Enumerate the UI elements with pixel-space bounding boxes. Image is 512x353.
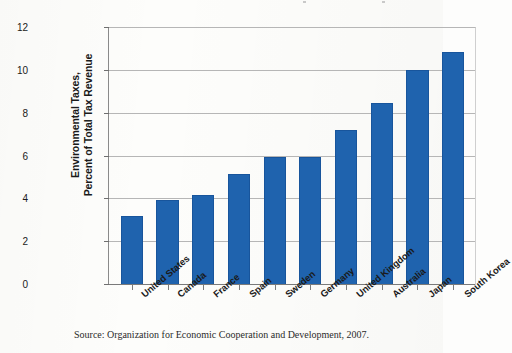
bar-chart-figure: Environmental Taxes, Percent of Total Ta… [40, 16, 403, 337]
x-axis-label-france: France [211, 291, 218, 299]
y-tick-label-6: 6 [0, 152, 28, 162]
y-tick-label-10: 10 [0, 66, 28, 76]
y-tick-label-8: 8 [0, 109, 28, 119]
bar-slot-sweden [257, 28, 293, 285]
y-axis-title: Environmental Taxes, Percent of Total Ta… [69, 25, 95, 225]
plot-area: 024681012 [108, 27, 476, 285]
bar-slot-united-states [114, 28, 150, 285]
x-axis-label-australia: Australia [390, 291, 397, 299]
y-tick-label-2: 2 [0, 237, 28, 247]
x-axis-label-japan: Japan [426, 291, 433, 299]
y-tick-label-0: 0 [0, 280, 28, 290]
scan-artifact-speck [303, 1, 306, 3]
bar-australia[interactable] [371, 103, 393, 285]
bar-slot-germany [293, 28, 329, 285]
bar-spain[interactable] [228, 174, 250, 285]
x-axis-label-united-states: United States [139, 291, 146, 299]
bar-slot-canada [150, 28, 186, 285]
bar-united-states[interactable] [121, 216, 143, 285]
scan-artifact-speck [382, 1, 385, 3]
bars-group [109, 28, 475, 285]
bar-united-kingdom[interactable] [335, 130, 357, 285]
x-axis-label-canada: Canada [175, 291, 182, 299]
bar-slot-united-kingdom [328, 28, 364, 285]
x-axis-label-sweden: Sweden [283, 291, 290, 299]
x-axis-label-south-korea: South Korea [462, 291, 469, 299]
bar-slot-south-korea [435, 28, 471, 285]
x-axis-label-united-kingdom: United Kingdom [354, 291, 361, 299]
bar-sweden[interactable] [264, 157, 286, 286]
bar-south-korea[interactable] [442, 52, 464, 285]
y-tick-label-4: 4 [0, 194, 28, 204]
x-axis-label-spain: Spain [247, 291, 254, 299]
bar-slot-france [185, 28, 221, 285]
bar-slot-australia [364, 28, 400, 285]
bar-germany[interactable] [299, 157, 321, 286]
x-axis-label-germany: Germany [318, 291, 325, 299]
bar-slot-spain [221, 28, 257, 285]
y-tick-label-12: 12 [0, 23, 28, 33]
source-note: Source: Organization for Economic Cooper… [74, 329, 484, 341]
